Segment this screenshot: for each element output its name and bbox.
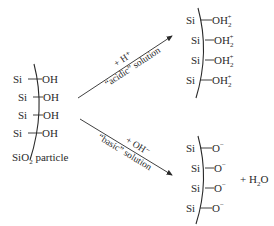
si-label: Si — [186, 14, 195, 26]
surface-group-2: Si O− — [191, 161, 226, 174]
si-label: Si — [186, 202, 195, 214]
oh-label: OH — [42, 127, 58, 139]
surface-group-3: Si O− — [191, 181, 226, 194]
oh2-plus-label: OH2+ — [212, 13, 232, 29]
o-minus-label: O− — [214, 181, 226, 194]
acidic-reaction-arrow: + H⁺ “acidic” solution — [78, 35, 172, 98]
surface-group-4: Si OH2+ — [186, 73, 232, 89]
particle-caption: SiO2 particle — [12, 151, 68, 166]
surface-group-1: Si OH — [13, 73, 58, 85]
oh2-plus-label: OH2+ — [212, 73, 232, 89]
si-label: Si — [186, 74, 195, 86]
si-label: Si — [186, 142, 195, 154]
acidic-condition-label: “acidic” solution — [103, 45, 162, 89]
surface-group-3: Si OH2+ — [191, 53, 234, 69]
oh2-plus-label: OH2+ — [214, 33, 234, 49]
si-label: Si — [13, 127, 22, 139]
reaction-diagram: Si OH Si OH Si OH Si OH SiO2 particle + … — [0, 0, 274, 226]
oh-label: OH — [43, 91, 59, 103]
oh2-plus-label: OH2+ — [214, 53, 234, 69]
basic-reaction-arrow: + OH⁻ “basic” solution — [80, 119, 172, 175]
o-minus-label: O− — [214, 161, 226, 174]
particle-surface-curve — [196, 136, 204, 224]
o-minus-label: O− — [212, 201, 224, 214]
o-minus-label: O− — [212, 141, 224, 154]
si-label: Si — [191, 54, 200, 66]
si-label: Si — [191, 162, 200, 174]
particle-surface-curve — [196, 8, 204, 98]
water-byproduct-label: + H2O — [240, 173, 268, 188]
surface-group-4: Si O− — [186, 201, 224, 214]
si-label: Si — [18, 109, 27, 121]
sio2-particle: Si OH Si OH Si OH Si OH SiO2 particle — [12, 64, 68, 166]
oh-label: OH — [43, 109, 59, 121]
si-label: Si — [191, 34, 200, 46]
si-label: Si — [191, 182, 200, 194]
deprotonated-particle: Si O− Si O− Si O− Si O− + H2O — [186, 136, 268, 224]
si-label: Si — [18, 91, 27, 103]
surface-group-1: Si OH2+ — [186, 13, 232, 29]
oh-label: OH — [42, 73, 58, 85]
si-label: Si — [13, 73, 22, 85]
surface-group-1: Si O− — [186, 141, 224, 154]
protonated-particle: Si OH2+ Si OH2+ Si OH2+ Si OH2+ — [186, 8, 234, 98]
particle-surface-curve — [30, 64, 39, 160]
surface-group-2: Si OH2+ — [191, 33, 234, 49]
